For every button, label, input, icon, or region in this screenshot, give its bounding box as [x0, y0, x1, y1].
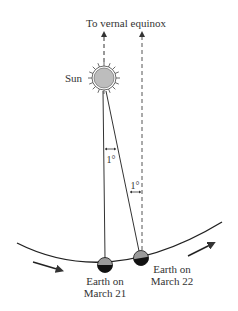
- earth1-label-line2: March 21: [84, 287, 126, 299]
- sun-earth1-line: [103, 91, 105, 258]
- sun-label: Sun: [65, 72, 83, 84]
- earth-march21-icon: [98, 258, 113, 273]
- sun-icon: [88, 62, 120, 94]
- angle-label-1: 1°: [107, 154, 116, 165]
- earth-orbit: [17, 222, 222, 262]
- orbit-direction-arrow-left: [33, 262, 60, 270]
- earth1-label-line1: Earth on: [86, 275, 124, 287]
- sidereal-day-diagram: To vernal equinox Sun 1° 1°: [0, 0, 238, 311]
- sun-earth2-line: [106, 91, 139, 251]
- vernal-equinox-label: To vernal equinox: [86, 17, 166, 29]
- earth2-label-line1: Earth on: [153, 263, 191, 275]
- angle-label-2: 1°: [131, 180, 140, 191]
- orbit-direction-arrow-right: [188, 244, 212, 256]
- earth-march22-icon: [134, 251, 149, 266]
- earth2-label-line2: March 22: [151, 275, 193, 287]
